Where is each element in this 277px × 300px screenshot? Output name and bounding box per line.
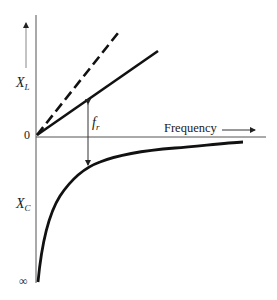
xl-label-sub: L <box>25 82 30 92</box>
diagram-canvas <box>0 0 277 300</box>
reactance-frequency-diagram: XL XC fr 0 ∞ Frequency <box>0 0 277 300</box>
xl-label: XL <box>16 75 30 92</box>
xc-label: XC <box>16 196 31 213</box>
origin-label: 0 <box>24 128 30 143</box>
xl-label-main: X <box>16 75 25 90</box>
dashed-reactance-line <box>37 33 118 135</box>
fr-label-sub: r <box>96 122 100 132</box>
xc-label-main: X <box>16 196 25 211</box>
infinity-label: ∞ <box>19 274 28 289</box>
xc-label-sub: C <box>25 203 31 213</box>
frequency-label: Frequency <box>164 121 217 136</box>
fr-label: fr <box>92 115 99 132</box>
capacitive-reactance-curve <box>38 142 243 282</box>
